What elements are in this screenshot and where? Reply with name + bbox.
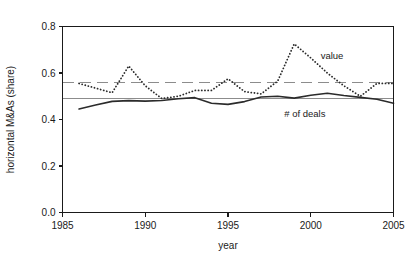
x-tick-label: 2005	[382, 220, 405, 231]
x-tick-label: 1995	[217, 220, 240, 231]
chart-figure: 0.00.20.40.60.819851990199520002005yearh…	[0, 0, 414, 258]
deals-annotation: # of deals	[284, 108, 325, 119]
x-tick-label: 2000	[300, 220, 323, 231]
y-tick-label: 0.8	[42, 21, 56, 32]
y-tick-label: 0.6	[42, 68, 56, 79]
y-axis-title: horizontal M&As (share)	[5, 66, 16, 173]
value-annotation: value	[321, 50, 344, 61]
x-tick-label: 1990	[134, 220, 157, 231]
horizontal-manda-share-line-chart: 0.00.20.40.60.819851990199520002005yearh…	[0, 0, 414, 258]
x-axis-title: year	[218, 240, 238, 251]
y-tick-label: 0.2	[42, 161, 56, 172]
y-tick-label: 0.0	[42, 207, 56, 218]
y-tick-label: 0.4	[42, 114, 56, 125]
x-tick-label: 1985	[51, 220, 74, 231]
